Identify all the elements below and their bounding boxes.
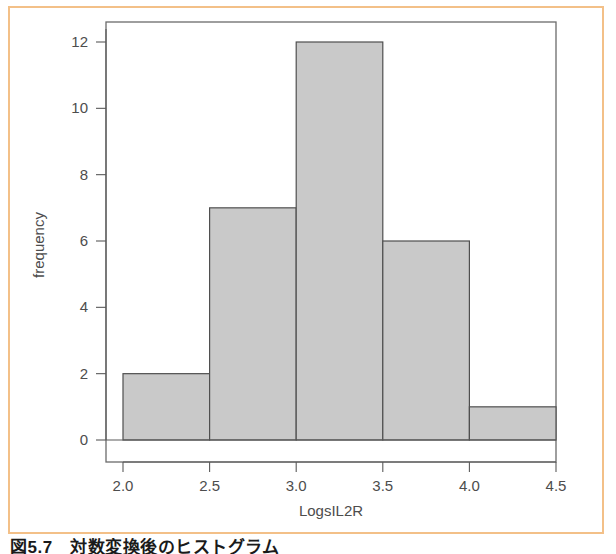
histogram-bar: [210, 208, 297, 440]
histogram-plot: 024681012 2.02.53.03.54.04.5 frequency L…: [0, 0, 616, 554]
x-tick-label: 4.5: [546, 477, 567, 494]
y-axis-title: frequency: [30, 212, 47, 278]
figure-caption: 図5.7 対数変換後のヒストグラム: [10, 538, 606, 554]
histogram-bar: [383, 241, 470, 440]
x-tick-label: 2.5: [199, 477, 220, 494]
x-tick-label: 4.0: [459, 477, 480, 494]
y-tick-label: 6: [80, 232, 88, 249]
x-axis-title: LogsIL2R: [299, 502, 363, 519]
y-tick-label: 0: [80, 431, 88, 448]
y-tick-label: 8: [80, 166, 88, 183]
x-axis-ticks: 2.02.53.03.54.04.5: [113, 462, 567, 494]
x-tick-label: 3.0: [286, 477, 307, 494]
histogram-bar: [469, 407, 556, 440]
x-tick-label: 2.0: [113, 477, 134, 494]
y-tick-label: 4: [80, 298, 88, 315]
y-tick-label: 10: [71, 99, 88, 116]
histogram-bar: [296, 42, 383, 440]
x-tick-label: 3.5: [372, 477, 393, 494]
y-tick-label: 2: [80, 365, 88, 382]
bars-group: [123, 42, 556, 440]
histogram-svg: 024681012 2.02.53.03.54.04.5 frequency L…: [0, 0, 616, 554]
histogram-bar: [123, 374, 210, 440]
y-axis-ticks: 024681012: [71, 33, 106, 448]
y-tick-label: 12: [71, 33, 88, 50]
